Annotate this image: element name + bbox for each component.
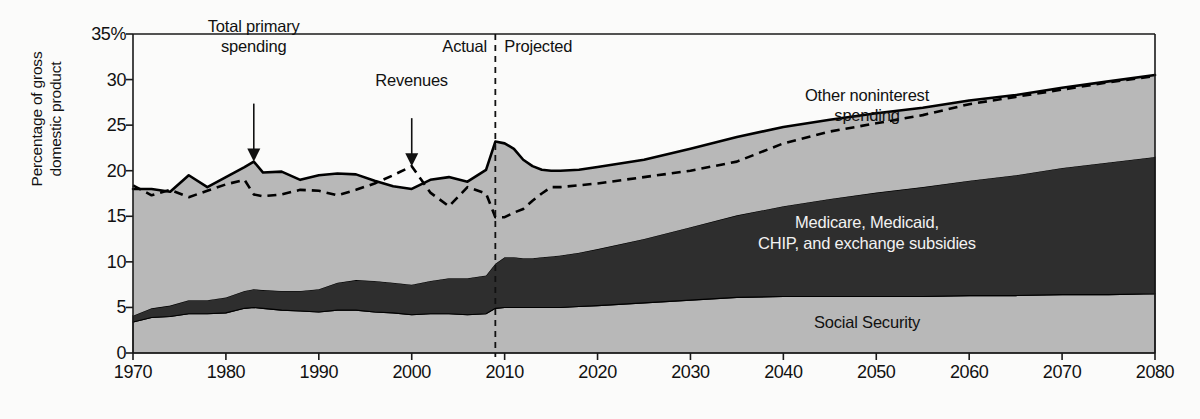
annotation-line2: spending	[208, 36, 300, 56]
annotation-total-primary-spending: Total primaryspending	[208, 16, 300, 56]
annotation-revenues: Revenues	[375, 70, 448, 90]
band-label-line2: CHIP, and exchange subsidies	[758, 233, 976, 254]
period-label-actual: Actual	[442, 36, 487, 56]
annotation-arrow-head	[405, 153, 418, 166]
band-label-line1: Social Security	[814, 312, 920, 333]
band-label-medicare-medicaid-chip: Medicare, Medicaid,CHIP, and exchange su…	[758, 212, 976, 253]
annotation-line1: Total primary	[208, 16, 300, 36]
band-label-line1: Medicare, Medicaid,	[758, 212, 976, 233]
period-label-projected: Projected	[504, 36, 572, 56]
chart-root: Percentage of gross domestic product 35%…	[0, 0, 1200, 419]
annotation-line1: Revenues	[375, 70, 448, 90]
band-label-line2: spending	[805, 105, 929, 126]
chart-plot	[0, 0, 1200, 419]
band-label-other-noninterest-spending: Other noninterestspending	[805, 85, 929, 126]
band-label-line1: Other noninterest	[805, 85, 929, 106]
band-label-social-security: Social Security	[814, 312, 920, 333]
annotation-arrow-head	[247, 149, 260, 162]
